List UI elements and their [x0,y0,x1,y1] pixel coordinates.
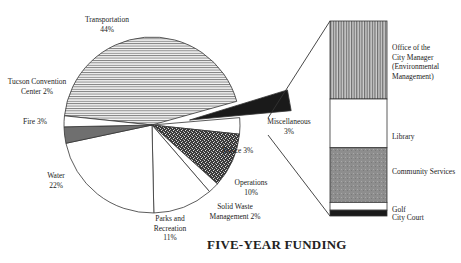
bar-segment-community-services [330,148,387,203]
connector-line-bottom [268,135,330,216]
slice-label-line: 22% [49,181,63,190]
bar-label-line: City Manager [392,53,434,62]
slice-label-line: Management 2% [209,212,260,221]
slice-label-operations: Operations10% [235,178,268,197]
slice-label-transportation: Transportation44% [85,15,129,34]
slice-label-line: Transportation [85,15,129,24]
slice-label-police: Police 3% [223,146,254,155]
slice-label-line: Parks and [155,214,185,223]
bar-segment-office-of-the-city-manager-environmental-management [330,21,387,99]
bar-label-line: Library [392,132,415,141]
bar-label-line: Office of the [392,43,431,52]
slice-label-line: Recreation [154,224,187,233]
bar-label-line: Community Services [392,167,455,176]
bar-segment-library [330,99,387,148]
slice-label-line: 11% [163,233,176,242]
slice-label-line: Solid Waste [217,202,253,211]
slice-label-miscellaneous: Miscellaneous3% [267,117,310,136]
bar-label-line: Management) [392,72,434,81]
connector-line-top [268,21,330,118]
bar-label-office-of-the-city-manager-environmental-management: Office of theCity Manager(EnvironmentalM… [392,43,439,81]
bar-label-city-court: City Court [392,213,425,222]
slice-label-line: Miscellaneous [267,117,310,126]
bar-segment-city-court [330,210,387,216]
slice-label-line: Water [47,171,65,180]
chart-title: FIVE-YEAR FUNDING [207,237,347,252]
slice-label-line: Tucson Convention [8,77,67,86]
bar-label-library: Library [392,132,415,141]
slice-label-tucson-convention-center: Tucson ConventionCenter 2% [8,77,67,96]
slice-label-line: Operations [235,178,268,187]
slice-label-line: Police 3% [223,146,254,155]
bar-label-line: City Court [392,213,425,222]
bar-segment-golf [330,202,387,210]
slice-label-line: Center 2% [21,87,53,96]
bar-label-community-services: Community Services [392,167,455,176]
bar-label-line: (Environmental [392,62,439,71]
slice-label-fire: Fire 3% [23,117,47,126]
slice-label-line: 3% [284,127,294,136]
slice-label-water: Water22% [47,171,65,190]
slice-label-line: Fire 3% [23,117,47,126]
slice-label-line: 10% [244,188,258,197]
slice-label-parks-and-recreation: Parks andRecreation11% [154,214,187,242]
slice-label-solid-waste-management: Solid WasteManagement 2% [209,202,260,221]
pie-slice-transportation [64,37,236,125]
five-year-funding-chart: Transportation44%Miscellaneous3%Police 3… [0,0,461,263]
slice-label-line: 44% [100,25,114,34]
